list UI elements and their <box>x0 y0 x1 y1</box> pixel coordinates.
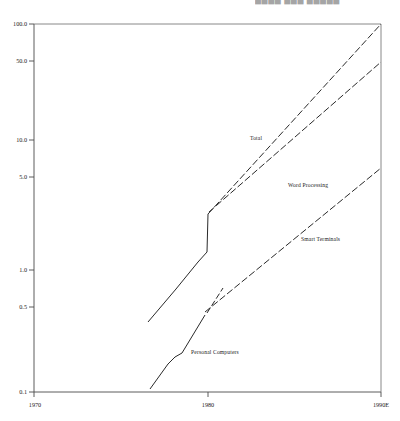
series-annotation-smart-terminals: Smart Terminals <box>301 236 340 242</box>
series-smart-terminals <box>205 168 381 312</box>
x-tick-label-1990e: 1990E <box>363 401 399 408</box>
series-total <box>148 24 381 322</box>
series-personal-computers <box>150 288 223 389</box>
series-annotation-word-processing: Word Processing <box>288 182 328 188</box>
axes-frame <box>34 24 381 392</box>
x-tick-label-1980: 1980 <box>192 401 224 408</box>
x-tick-label-1970: 1970 <box>19 401 51 408</box>
y-tick-label-0-1: 0.1 <box>2 388 27 395</box>
y-tick-label-5: 5.0 <box>2 173 27 180</box>
plot-area <box>0 0 400 421</box>
y-tick-label-0-5: 0.5 <box>2 303 27 310</box>
series-annotation-personal-computers: Personal Computers <box>191 349 239 355</box>
chart-figure: ████ ███ █████ <box>0 0 400 421</box>
y-tick-label-50: 50.0 <box>2 57 27 64</box>
y-axis-ticks <box>29 24 34 392</box>
x-axis-ticks <box>34 392 381 397</box>
y-tick-label-1: 1.0 <box>2 266 27 273</box>
y-tick-label-10: 10.0 <box>2 136 27 143</box>
y-tick-label-100: 100.0 <box>2 20 27 27</box>
series-annotation-total: Total <box>250 135 262 141</box>
